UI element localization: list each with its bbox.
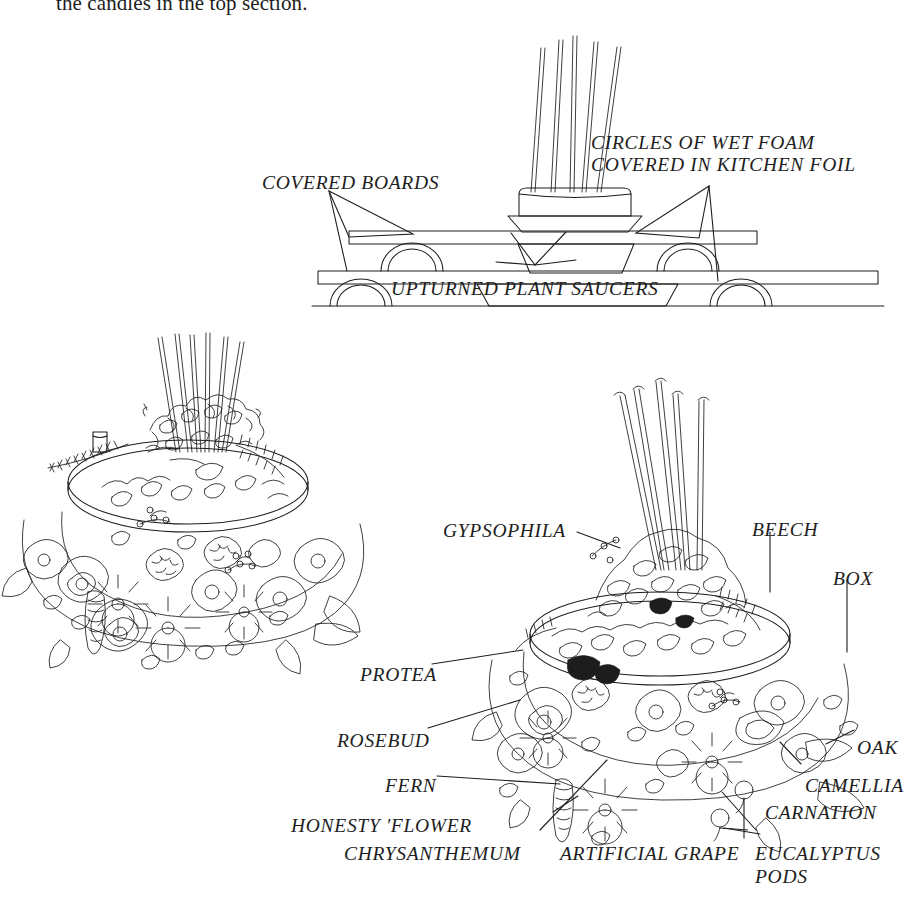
label-chrysanthemum: CHRYSANTHEMUM	[344, 843, 521, 865]
leader-chrysanthemum	[540, 760, 607, 830]
left-upper-plate-foliage	[48, 435, 288, 506]
label-artificial-grape: ARTIFICIAL GRAPE	[560, 843, 739, 865]
label-circles-of-wet-foam: CIRCLES OF WET FOAM	[591, 132, 815, 154]
label-fern: FERN	[385, 775, 437, 797]
right-candles	[614, 378, 709, 570]
label-upturned-plant-saucers: UPTURNED PLANT SAUCERS	[391, 278, 658, 300]
label-pods: PODS	[755, 866, 808, 888]
leader-protea	[432, 650, 523, 664]
upturned-saucers-leader	[496, 232, 576, 265]
label-covered-boards: COVERED BOARDS	[262, 172, 439, 194]
left-candles	[158, 333, 244, 452]
label-covered-in-kitchen-foil: COVERED IN KITCHEN FOIL	[591, 154, 856, 176]
wet-foam-leader	[636, 186, 718, 281]
label-rosebud: ROSEBUD	[337, 730, 430, 752]
leader-fern	[437, 776, 560, 784]
leader-rosebud	[428, 700, 520, 728]
middle-foam-block	[518, 244, 634, 273]
label-protea: PROTEA	[360, 664, 437, 686]
label-eucalyptus: EUCALYPTUS	[755, 843, 881, 865]
label-oak: OAK	[857, 737, 898, 759]
right-top-tier-foliage	[588, 529, 746, 628]
label-camellia: CAMELLIA	[805, 775, 904, 797]
leader-gypsophila	[577, 532, 620, 548]
left-arrangement-artwork	[2, 333, 364, 674]
label-beech: BEECH	[752, 519, 818, 541]
label-box: BOX	[833, 568, 873, 590]
top-foam-circle	[519, 188, 631, 216]
top-upturned-saucer	[508, 216, 642, 232]
upper-tier-saucers	[381, 243, 719, 271]
right-arrangement-artwork	[428, 378, 864, 852]
label-gypsophila: GYPSOPHILA	[443, 520, 566, 542]
label-honesty-flower: HONESTY 'FLOWER	[291, 815, 472, 837]
left-top-tier-foliage	[143, 395, 264, 450]
label-carnation: CARNATION	[765, 802, 877, 824]
